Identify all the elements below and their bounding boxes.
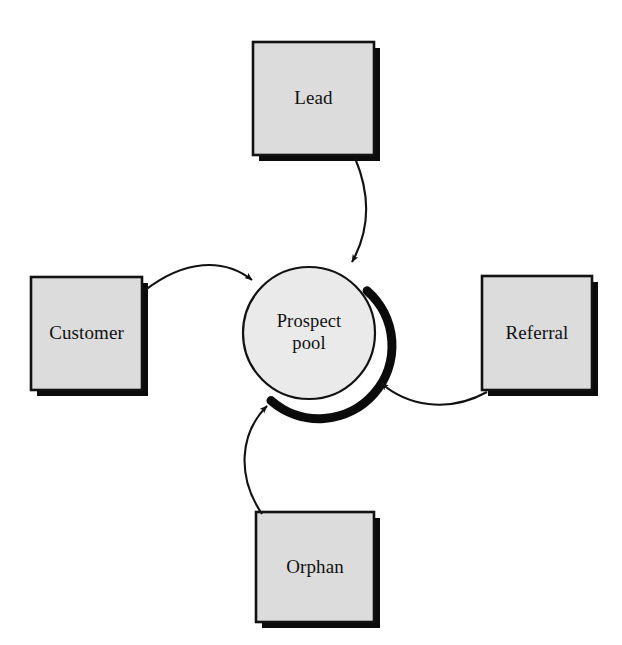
lead-to-pool-arrow (352, 158, 366, 262)
diagram-canvas: Lead Customer Referral Orphan Prospect p… (0, 0, 622, 645)
orphan-box[interactable] (256, 512, 374, 622)
referral-to-pool-arrow (381, 383, 487, 405)
customer-box[interactable] (31, 277, 142, 390)
customer-to-pool-arrow (144, 265, 252, 291)
diagram-graphics (0, 0, 622, 645)
lead-box[interactable] (253, 42, 374, 155)
referral-box[interactable] (482, 276, 592, 390)
orphan-to-pool-arrow (245, 406, 267, 514)
prospect-pool-circle[interactable] (243, 267, 375, 399)
